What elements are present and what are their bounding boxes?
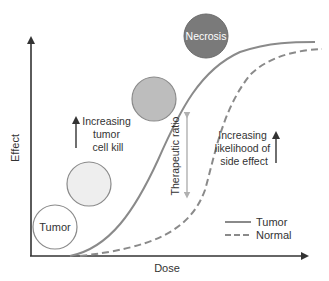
svg-text:Necrosis: Necrosis — [186, 30, 227, 42]
x-axis-label: Dose — [154, 262, 180, 274]
dose-response-diagram: Effect Dose Tumor Necrosis Therapeutic r… — [0, 0, 329, 281]
tumor-kill-label: Increasing tumor cell kill — [82, 115, 133, 153]
svg-text:Tumor: Tumor — [256, 216, 288, 228]
therapeutic-ratio-label: Therapeutic ratio — [169, 116, 181, 195]
svg-text:Normal: Normal — [256, 229, 291, 241]
legend: Tumor Normal — [225, 216, 291, 241]
mid-gray-circle — [132, 77, 176, 121]
y-axis-label: Effect — [9, 134, 21, 162]
tumor-circle: Tumor — [33, 205, 77, 249]
necrosis-circle: Necrosis — [184, 14, 228, 58]
side-effect-label: Increasing likelihood of side effect — [215, 129, 273, 167]
svg-text:Tumor: Tumor — [39, 221, 71, 233]
light-gray-circle — [67, 162, 111, 206]
